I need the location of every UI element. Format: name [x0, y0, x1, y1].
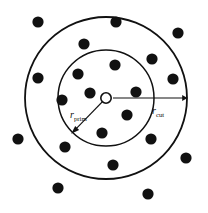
r-cut-label-sub: cut	[156, 110, 164, 117]
particle-dot	[59, 141, 70, 152]
particle-dot	[110, 16, 121, 27]
particle-dot	[142, 188, 153, 199]
particle-dot	[12, 133, 23, 144]
r-cut-label: rcut	[152, 105, 164, 117]
radius-arrow-rcut	[113, 95, 188, 101]
particle-dot	[146, 53, 157, 64]
particle-dot	[145, 133, 156, 144]
diagram-canvas: rprim rcut	[0, 0, 208, 213]
particle-dot	[130, 86, 141, 97]
particle-dot	[107, 159, 118, 170]
particle-dot	[109, 59, 120, 70]
diagram-svg: rprim rcut	[0, 0, 208, 213]
particle-dot	[84, 87, 95, 98]
particle-dot	[32, 72, 43, 83]
particle-dot	[56, 94, 67, 105]
particle-dot	[172, 27, 183, 38]
particle-dot	[78, 38, 89, 49]
center-open-circle-marker	[101, 93, 111, 103]
particle-dot	[72, 68, 83, 79]
particle-dot	[96, 127, 107, 138]
particle-dot	[32, 16, 43, 27]
particle-dot	[167, 73, 178, 84]
particle-dot	[52, 182, 63, 193]
r-prim-label: rprim	[70, 109, 87, 121]
particle-dot	[180, 152, 191, 163]
particle-dot-layer	[12, 16, 191, 199]
r-prim-label-sub: prim	[74, 114, 88, 121]
particle-dot	[121, 109, 132, 120]
